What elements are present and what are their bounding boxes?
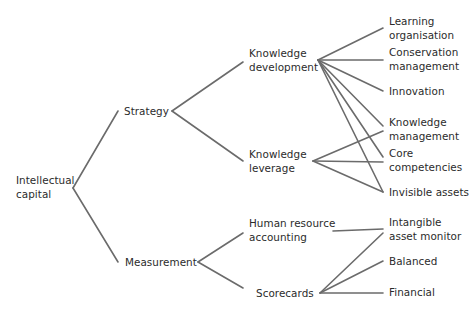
edge-human-resource-accounting-to-intangible-asset-monitor [333,229,383,231]
edge-intellectual-capital-to-strategy [73,111,118,188]
node-label-line: development [249,60,318,74]
edge-knowledge-leverage-to-invisible-assets [313,161,383,192]
edge-strategy-to-knowledge-development [172,62,243,111]
node-label-line: accounting [249,230,335,244]
node-financial: Financial [389,285,435,299]
node-scorecards: Scorecards [256,286,314,300]
node-innovation: Innovation [389,84,445,98]
node-label-line: Financial [389,285,435,299]
node-label-line: Conservation [389,45,459,59]
node-label-line: Knowledge [389,115,459,129]
node-label-line: Invisible assets [389,185,469,199]
node-label-line: Scorecards [256,286,314,300]
node-core-competencies: Corecompetencies [389,146,462,174]
node-label-line: management [389,129,459,143]
node-label-line: capital [16,187,75,201]
node-intangible-asset-monitor: Intangibleasset monitor [389,215,461,243]
node-label-line: Innovation [389,84,445,98]
node-label-line: Strategy [124,104,169,118]
node-label-line: organisation [389,28,454,42]
node-label-line: leverage [249,161,307,175]
edge-knowledge-development-to-knowledge-management [318,60,383,126]
edge-strategy-to-knowledge-leverage [172,111,243,161]
node-label-line: Intangible [389,215,461,229]
intellectual-capital-tree-diagram: IntellectualcapitalStrategyMeasurementKn… [0,0,469,320]
edge-scorecards-to-balanced [320,261,383,293]
edge-measurement-to-scorecards [198,262,243,288]
node-conservation-management: Conservationmanagement [389,45,459,73]
node-label-line: Balanced [389,254,437,268]
node-label-line: Human resource [249,216,335,230]
node-label-line: asset monitor [389,229,461,243]
node-label-line: Intellectual [16,173,75,187]
node-label-line: Knowledge [249,46,318,60]
node-intellectual-capital: Intellectualcapital [16,173,75,201]
node-strategy: Strategy [124,104,169,118]
node-learning-organisation: Learningorganisation [389,14,454,42]
node-knowledge-development: Knowledgedevelopment [249,46,318,74]
edge-knowledge-development-to-invisible-assets [318,60,383,192]
node-human-resource-accounting: Human resourceaccounting [249,216,335,244]
node-label-line: management [389,59,459,73]
node-knowledge-management: Knowledgemanagement [389,115,459,143]
edge-measurement-to-human-resource-accounting [198,233,243,262]
node-knowledge-leverage: Knowledgeleverage [249,147,307,175]
node-balanced: Balanced [389,254,437,268]
node-invisible-assets: Invisible assets [389,185,469,199]
edge-knowledge-leverage-to-knowledge-management [313,131,383,161]
node-measurement: Measurement [125,255,197,269]
edge-knowledge-development-to-learning-organisation [318,28,383,60]
node-label-line: Knowledge [249,147,307,161]
edge-intellectual-capital-to-measurement [73,188,118,262]
node-label-line: Measurement [125,255,197,269]
node-label-line: Learning [389,14,454,28]
edge-knowledge-leverage-to-core-competencies [313,161,383,162]
node-label-line: Core [389,146,462,160]
edge-knowledge-development-to-core-competencies [318,60,383,157]
node-label-line: competencies [389,160,462,174]
